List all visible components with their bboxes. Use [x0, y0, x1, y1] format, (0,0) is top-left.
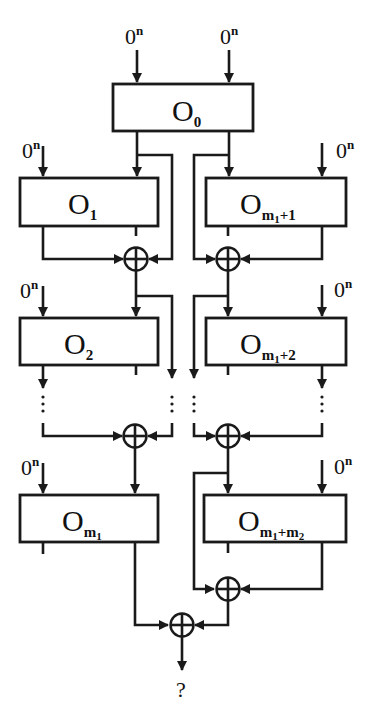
oracle-xor-diagram: 0n 0n O0 0n 0n O1 Om1+1 — [0, 0, 372, 713]
wire-bypass-left-xor2 — [148, 423, 172, 436]
zero-input-o1: 0n — [22, 137, 43, 176]
output-label: ? — [176, 677, 186, 702]
xor-final — [171, 614, 194, 637]
xor-left-2 — [124, 425, 147, 448]
xor-right-2 — [217, 425, 240, 448]
svg-text:0n: 0n — [20, 277, 39, 303]
zero-input-om1p1: 0n — [322, 137, 355, 176]
wire-left-to-xor2 — [43, 423, 122, 436]
zero-input-o0-right: 0n — [220, 23, 239, 82]
xor-right-1 — [217, 248, 240, 271]
zero-input-o0-left: 0n — [125, 23, 144, 82]
svg-text:0n: 0n — [21, 454, 40, 480]
block-om1p2: Om1+2 — [206, 318, 346, 365]
zero-input-o2: 0n — [20, 277, 43, 316]
block-o0: O0 — [113, 84, 253, 131]
block-om1: Om1 — [20, 495, 158, 542]
svg-text:0n: 0n — [125, 23, 144, 49]
svg-text:0n: 0n — [220, 23, 239, 49]
svg-text:0n: 0n — [22, 137, 41, 163]
block-om1p1: Om1+1 — [206, 178, 346, 226]
xor-right-3 — [217, 578, 240, 601]
svg-text:0n: 0n — [336, 137, 355, 163]
zero-input-om1: 0n — [21, 454, 43, 493]
wire-om1pm2-to-xor3 — [241, 542, 322, 589]
ellipsis-dots — [41, 395, 323, 412]
wire-om1p1-to-xor1r — [241, 226, 322, 259]
xor-left-1 — [125, 248, 148, 271]
zero-input-om1p2: 0n — [322, 276, 353, 316]
svg-text:0n: 0n — [334, 453, 353, 479]
wire-right-to-xor2r — [241, 423, 322, 436]
block-o2: O2 — [20, 318, 158, 365]
zero-input-om1pm2: 0n — [322, 453, 353, 493]
wire-o1-to-xor1 — [43, 226, 123, 259]
wire-om1-to-final-xor — [135, 542, 168, 625]
wire-bypass-right-xor2 — [194, 423, 215, 436]
wire-xor3-to-final-xor — [195, 601, 228, 626]
block-o1: O1 — [20, 178, 158, 226]
block-om1pm2: Om1+m2 — [204, 495, 346, 542]
svg-text:0n: 0n — [334, 276, 353, 302]
